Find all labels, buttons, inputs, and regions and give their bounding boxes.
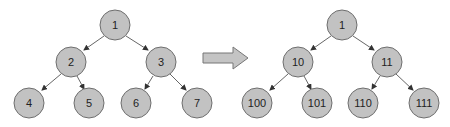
tree-node: 11 (372, 47, 402, 77)
edge-1-10 (311, 36, 331, 50)
edge-10-100 (270, 74, 288, 90)
node-label: 100 (248, 97, 266, 109)
edge-2-5 (77, 76, 84, 89)
node-label: 110 (354, 97, 372, 109)
right-arrow-icon (203, 47, 248, 69)
edge-3-7 (170, 74, 186, 90)
node-label: 6 (133, 97, 139, 109)
node-label: 1 (112, 19, 118, 31)
node-label: 5 (86, 97, 92, 109)
tree-node: 5 (74, 88, 104, 118)
tree-node: 4 (14, 88, 44, 118)
tree-node: 7 (182, 88, 212, 118)
edge-2-4 (42, 74, 61, 90)
node-label: 7 (194, 97, 200, 109)
tree-node: 3 (146, 47, 176, 77)
node-label: 4 (26, 97, 32, 109)
edge-1-2 (84, 36, 104, 50)
tree-node: 100 (242, 88, 272, 118)
node-label: 10 (292, 56, 304, 68)
edge-10-101 (304, 76, 311, 89)
edge-11-111 (396, 74, 413, 90)
node-label: 3 (158, 56, 164, 68)
edge-11-110 (372, 76, 380, 89)
edge-1-3 (126, 36, 148, 50)
tree-node: 111 (409, 88, 439, 118)
node-label: 11 (381, 56, 392, 68)
tree-node: 110 (348, 88, 378, 118)
right-tree: 1 10 11 100 101 110 111 (242, 10, 439, 118)
tree-node: 101 (302, 88, 332, 118)
tree-node: 1 (327, 10, 357, 40)
node-label: 2 (68, 56, 74, 68)
node-label: 111 (416, 97, 433, 109)
left-tree: 1 2 3 4 5 6 7 (14, 10, 212, 118)
tree-node: 2 (56, 47, 86, 77)
edge-1-11 (353, 36, 374, 50)
edge-3-6 (145, 76, 153, 89)
tree-node: 10 (283, 47, 313, 77)
tree-node: 6 (121, 88, 151, 118)
tree-node: 1 (100, 10, 130, 40)
node-label: 1 (339, 19, 345, 31)
node-label: 101 (308, 97, 326, 109)
diagram-canvas: 1 2 3 4 5 6 7 (0, 0, 450, 127)
